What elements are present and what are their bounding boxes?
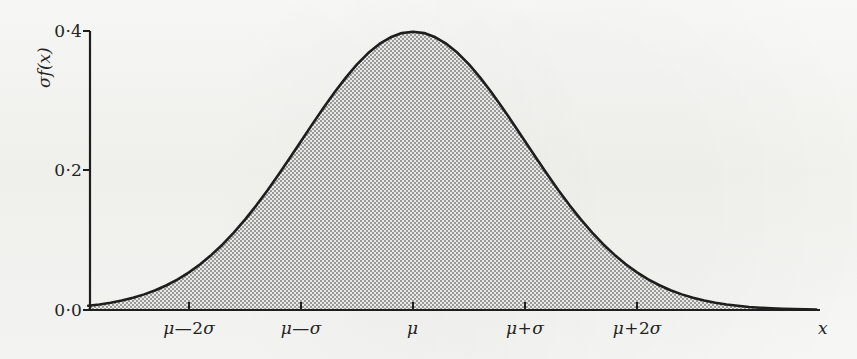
curve-area-fill (88, 32, 816, 310)
x-tick-label-mu-plus-sigma: μ+σ (506, 320, 544, 337)
x-tick-sigma: σ (203, 318, 215, 338)
x-tick-coefficient: 2 (192, 318, 203, 338)
x-tick-sigma: σ (310, 318, 322, 338)
x-tick-operator: — (174, 318, 192, 338)
x-tick-coefficient: 2 (639, 318, 650, 338)
x-tick-label-mu-minus-sigma: μ—σ (281, 320, 322, 337)
x-tick-label-mu-plus-2sigma: μ+2σ (613, 320, 662, 337)
y-axis-title: σf(x) (34, 47, 54, 88)
x-tick-sigma: σ (650, 318, 662, 338)
x-tick-operator: + (624, 318, 639, 338)
x-tick-label-mu: μ (407, 320, 419, 337)
x-tick-sigma: σ (532, 318, 544, 338)
y-tick-label-0.2: 0·2 (46, 162, 82, 179)
x-tick-operator: — (292, 318, 310, 338)
y-tick-label-0.0: 0·0 (46, 302, 82, 319)
x-tick-mu: μ (506, 318, 517, 338)
x-tick-mu: μ (163, 318, 174, 338)
y-tick-label-0.4: 0·4 (46, 23, 82, 40)
normal-distribution-plot (0, 0, 857, 359)
x-tick-label-mu-minus-2sigma: μ—2σ (163, 320, 215, 337)
x-tick-mu: μ (281, 318, 292, 338)
figure-canvas: σf(x) 0·4 0·2 0·0 μ—2σ μ—σ μ μ+σ μ+2σ x (0, 0, 857, 359)
x-tick-operator: + (517, 318, 532, 338)
x-tick-mu: μ (613, 318, 624, 338)
x-axis-title: x (818, 318, 828, 338)
x-tick-operator (418, 318, 419, 338)
x-tick-mu: μ (407, 318, 418, 338)
